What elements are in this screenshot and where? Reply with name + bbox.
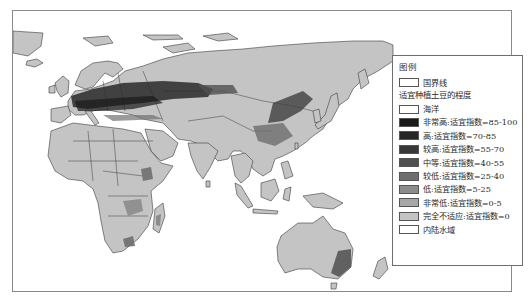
legend-label: 完全不适应:适宜指数=0 (423, 210, 510, 222)
ocean-swatch (399, 105, 419, 114)
legend-item-high: 高:适宜指数=70-85 (399, 129, 518, 142)
medium-swatch (399, 158, 419, 167)
very-low-swatch (399, 198, 419, 207)
very-high-swatch (399, 118, 419, 127)
legend-item-ocean: 海洋 (399, 102, 518, 115)
map-legend: 图例 国界线 适宜种植土豆的程度 海洋 非常高:适宜指数=85-100 高:适宜… (392, 55, 523, 266)
india (188, 143, 218, 179)
unsuitable-swatch (399, 212, 419, 221)
low-swatch (399, 185, 419, 194)
legend-item-unsuitable: 完全不适应:适宜指数=0 (399, 210, 518, 223)
inland-water-swatch (399, 225, 419, 234)
ireland (49, 85, 55, 93)
legend-item-fairly-low: 较低:适宜指数=25-40 (399, 169, 518, 182)
legend-item-boundary: 国界线 (399, 76, 518, 89)
legend-label: 非常低:适宜指数=0-5 (423, 197, 502, 209)
fairly-low-swatch (399, 172, 419, 181)
map-frame: 图例 国界线 适宜种植土豆的程度 海洋 非常高:适宜指数=85-100 高:适宜… (12, 10, 512, 292)
legend-label: 较低:适宜指数=25-40 (423, 170, 504, 182)
legend-label: 国界线 (423, 77, 447, 89)
greenland (13, 31, 43, 56)
legend-item-low: 低:适宜指数=5-25 (399, 183, 518, 196)
legend-item-very-low: 非常低:适宜指数=0-5 (399, 196, 518, 209)
legend-label: 高:适宜指数=70-85 (423, 130, 496, 142)
legend-subtitle: 适宜种植土豆的程度 (399, 89, 518, 102)
iceland (26, 59, 43, 67)
legend-label: 海洋 (423, 103, 439, 115)
legend-item-very-high: 非常高:适宜指数=85-100 (399, 116, 518, 129)
legend-label: 内陆水域 (423, 224, 455, 236)
borneo (261, 179, 279, 201)
figure-caption (0, 296, 528, 303)
legend-label: 中等:适宜指数=40-55 (423, 157, 504, 169)
legend-item-fairly-high: 较高:适宜指数=55-70 (399, 143, 518, 156)
italy (85, 111, 99, 125)
legend-item-medium: 中等:适宜指数=40-55 (399, 156, 518, 169)
indochina (231, 153, 253, 183)
fairly-high-swatch (399, 145, 419, 154)
legend-title: 图例 (399, 61, 518, 73)
iberia (51, 106, 71, 123)
landmasses (13, 31, 393, 289)
new-zealand (373, 257, 388, 279)
uk (55, 76, 69, 97)
high-swatch (399, 131, 419, 140)
legend-label: 非常高:适宜指数=85-100 (423, 116, 517, 128)
boundary-swatch (399, 78, 419, 87)
legend-label: 低:适宜指数=5-25 (423, 183, 491, 195)
legend-label: 较高:适宜指数=55-70 (423, 143, 504, 155)
legend-item-inland-water: 内陆水域 (399, 223, 518, 236)
new-guinea (303, 193, 343, 209)
